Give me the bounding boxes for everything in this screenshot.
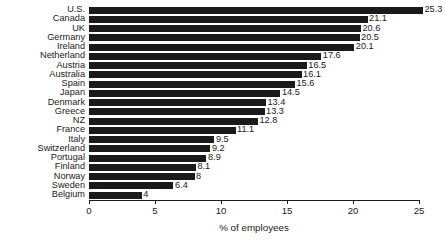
x-axis-line [89,200,419,201]
bar [89,118,258,125]
x-axis-tick-label: 10 [216,205,227,216]
bar-value-label: 25.3 [423,5,442,15]
x-axis-tick [221,200,222,204]
x-axis-tick [287,200,288,204]
x-axis-title: % of employees [0,222,446,233]
bar [89,127,236,134]
bar-row: Belgium4 [0,191,446,200]
x-axis-tick-label: 25 [414,205,425,216]
bar [89,145,210,152]
x-axis-tick [89,200,90,204]
bar-chart: U.S.25.3Canada21.1UK20.6Germany20.5Irela… [0,0,446,246]
bar-row: Greece13.3 [0,107,446,116]
x-axis-tick-label: 5 [152,205,157,216]
plot-area: U.S.25.3Canada21.1UK20.6Germany20.5Irela… [0,0,446,200]
x-axis-tick [155,200,156,204]
bar [89,53,321,60]
bar [89,136,214,143]
x-axis-tick [353,200,354,204]
bar-value-label: 6.4 [173,181,187,191]
bar-value-label: 11.1 [236,125,255,135]
x-axis-tick-label: 15 [282,205,293,216]
bar [89,155,206,162]
x-axis-tick-label: 20 [348,205,359,216]
bar [89,34,360,41]
x-axis-tick-label: 0 [86,205,91,216]
bar [89,71,302,78]
bar [89,182,173,189]
bar [89,99,266,106]
bar [89,44,354,51]
bar [89,16,368,23]
bar [89,81,295,88]
bar [89,62,307,69]
x-axis-title-label: % of employees [219,222,289,233]
bar-value-label: 20.1 [354,42,373,52]
bar [89,90,280,97]
bar [89,25,361,32]
category-label: Belgium [0,190,85,200]
bar-value-label: 8 [195,172,202,182]
bar [89,108,265,115]
bar [89,164,196,171]
bar [89,173,195,180]
bar [89,192,142,199]
x-axis-tick [419,200,420,204]
bar-value-label: 4 [142,190,149,200]
bar-value-label: 12.8 [258,116,277,126]
